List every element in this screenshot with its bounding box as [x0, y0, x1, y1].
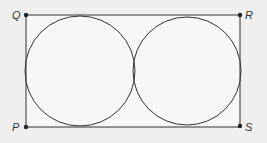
label-s: S [245, 121, 253, 133]
label-p: P [12, 121, 20, 133]
label-r: R [245, 9, 253, 21]
point-p [24, 125, 28, 129]
diagram-svg: Q R S P [0, 0, 267, 143]
point-q [24, 13, 28, 17]
geometry-diagram: Q R S P [0, 0, 267, 143]
point-s [238, 124, 242, 128]
point-r [238, 13, 242, 17]
label-q: Q [12, 9, 21, 21]
